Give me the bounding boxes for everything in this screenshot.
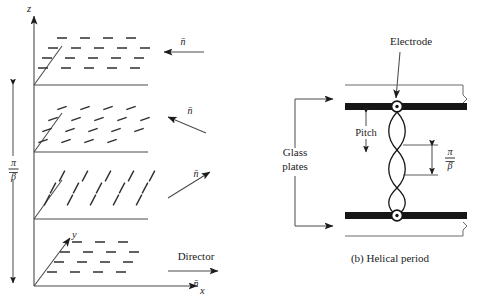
layer-third-director-text: n̄ (194, 168, 199, 179)
glass-plates-leader-upper (295, 99, 333, 148)
axis-y (34, 238, 70, 286)
layer-bottom-director-dashes (47, 242, 139, 272)
layer-second: n̄ (34, 105, 206, 152)
helix-turn-1 (389, 112, 406, 150)
electrode-bar-top (345, 103, 467, 110)
electrode-terminal-top-icon (392, 101, 403, 112)
layer-top: n̄ (34, 36, 204, 85)
panel-b-period-dimension: π β (403, 145, 455, 175)
helix-turn-2 (389, 150, 406, 188)
director-symbol: n̄ (194, 278, 199, 289)
liquid-crystal-figure: z x y π β (0, 0, 477, 301)
helix-structure (389, 112, 406, 216)
layer-third-director-arrow (168, 172, 210, 198)
panel-a-period-label: π β (6, 156, 21, 182)
layer-third: n̄ (34, 168, 210, 219)
glass-plate-bottom-surface (345, 222, 467, 236)
layer-second-director-arrow (168, 117, 206, 133)
panel-a: z x y π β (6, 3, 218, 296)
layer-bottom: Director n̄ (47, 242, 218, 289)
layer-top-oblique-edge (34, 46, 62, 85)
axis-y-label: y (71, 229, 77, 240)
layer-top-director-label: n̄ (181, 36, 186, 47)
glass-plates-leader-lower (295, 176, 333, 226)
electrode-label: Electrode (390, 35, 432, 47)
glass-plate-top-surface (345, 85, 467, 103)
glass-plates-label-line2: plates (282, 160, 308, 172)
panel-b-period-numerator: π (447, 146, 453, 157)
axis-z-label: z (26, 3, 31, 14)
pitch-label: Pitch (355, 127, 377, 138)
electrode-bar-bottom (345, 212, 467, 219)
layer-second-director-text: n̄ (188, 105, 193, 116)
glass-plates-callout: Glass plates (282, 99, 333, 226)
layer-top-director-text: n̄ (181, 36, 186, 47)
panel-b-period-label: π β (445, 146, 455, 171)
layer-third-director-dashes (44, 171, 155, 206)
layer-top-director-dashes (38, 38, 150, 68)
layer-second-director-dashes (38, 106, 149, 142)
panel-b: Electrode Pitch π (282, 35, 467, 265)
pitch-dimension: Pitch (348, 113, 385, 152)
layer-second-oblique-edge (34, 113, 62, 152)
figure-root: z x y π β (0, 0, 477, 301)
electrode-leader-arrow (396, 52, 400, 98)
panel-b-caption: (b) Helical period (351, 252, 430, 265)
director-caption: Director (178, 250, 215, 262)
axis-x-label: x (199, 285, 205, 296)
electrode-terminal-bottom-icon (392, 210, 403, 221)
